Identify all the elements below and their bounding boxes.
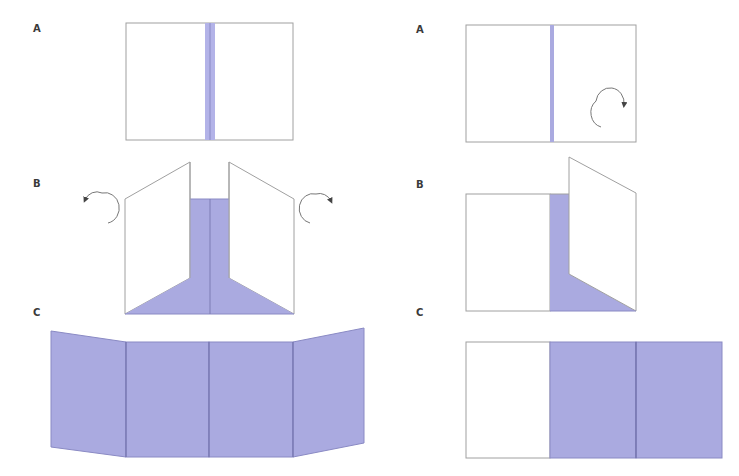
purple-panel-2 (636, 342, 722, 458)
right-step-c-diagram (466, 342, 722, 458)
center-panel (550, 194, 569, 311)
left-step-a-diagram (126, 23, 293, 140)
center-strip (550, 25, 554, 142)
rotate-cw-arrow-icon (299, 193, 331, 223)
rotate-ccw-arrow-icon (85, 192, 119, 223)
panel-4 (293, 328, 364, 457)
right-step-a-diagram (466, 25, 636, 142)
purple-panel-1 (550, 342, 636, 458)
left-step-b-diagram (85, 162, 331, 314)
folding-diagram (0, 0, 739, 476)
right-step-b-diagram (466, 157, 636, 311)
left-panel (466, 194, 550, 311)
panel-2 (126, 342, 209, 457)
panel-1 (51, 331, 126, 457)
white-panel (466, 342, 550, 458)
panel-3 (209, 342, 293, 457)
left-step-c-diagram (51, 328, 364, 457)
